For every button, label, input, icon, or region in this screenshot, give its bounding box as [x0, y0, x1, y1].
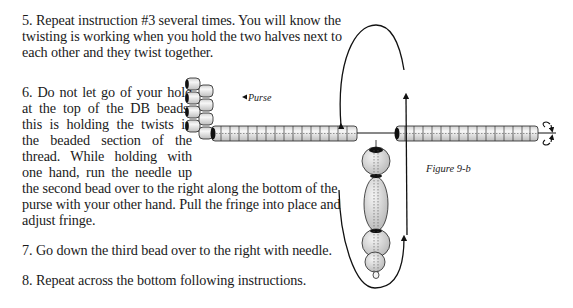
top-loop-arrow: [340, 25, 404, 126]
figure-9b-diagram: [0, 0, 573, 308]
left-bead-strand: [211, 126, 358, 141]
figure-caption: Figure 9-b: [426, 163, 471, 174]
right-up-arrow: [406, 96, 407, 235]
purse-label: Purse: [248, 92, 271, 103]
purse-beads: [185, 78, 213, 139]
right-bead-strand: [395, 126, 539, 141]
purse-pointer-icon: [242, 95, 247, 100]
fringe-dangle: [362, 140, 390, 279]
